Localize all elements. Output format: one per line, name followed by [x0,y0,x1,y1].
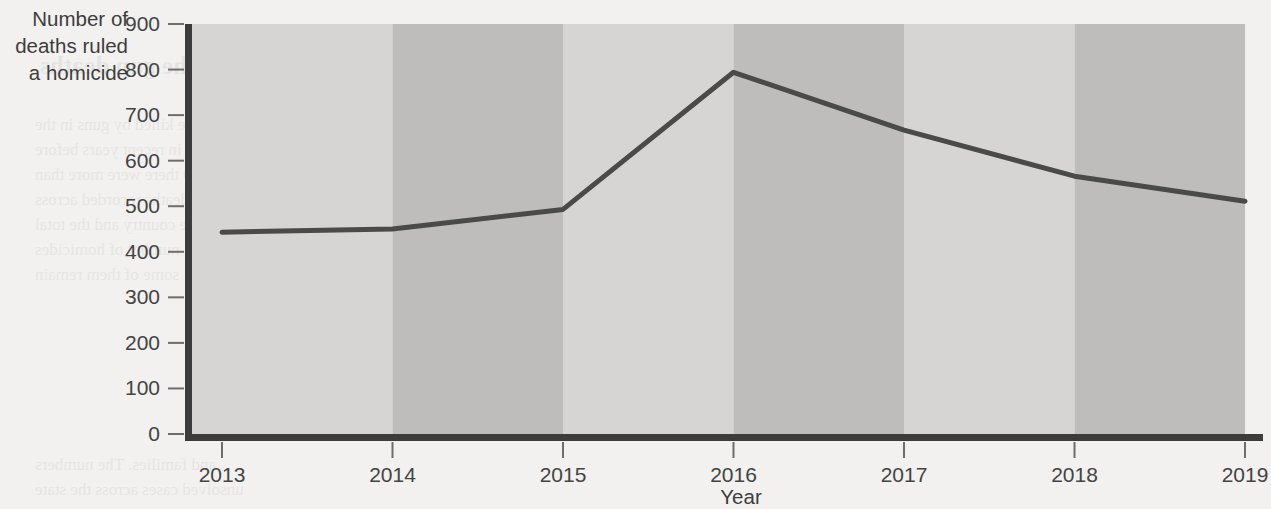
y-tick-label: 100 [125,376,160,399]
x-tick-label: 2017 [881,463,928,486]
x-tick-label: 2018 [1051,463,1098,486]
y-tick-label: 900 [125,12,160,35]
x-tick-label: 2019 [1222,463,1269,486]
y-tick-label: 300 [125,285,160,308]
year-band [734,24,905,434]
y-axis-title-line-2: deaths ruled [15,34,128,57]
y-axis-spine [185,24,192,441]
x-tick-label: 2016 [710,463,757,486]
x-axis-title: Year [720,485,762,508]
line-chart: 0100200300400500600700800900 20132014201… [0,0,1271,509]
year-band [1075,24,1246,434]
x-axis-tick-labels: 2013201420152016201720182019 [199,463,1269,486]
x-tick-label: 2015 [540,463,587,486]
year-band [563,24,734,434]
chart-canvas: 0100200300400500600700800900 20132014201… [0,0,1271,509]
x-tick-label: 2013 [199,463,246,486]
y-tick-label: 500 [125,194,160,217]
y-tick-label: 200 [125,331,160,354]
x-axis-spine [185,434,1263,441]
y-tick-label: 0 [148,422,160,445]
y-tick-label: 400 [125,240,160,263]
y-tick-label: 800 [125,58,160,81]
x-tick-label: 2014 [369,463,416,486]
y-tick-label: 600 [125,149,160,172]
year-band [904,24,1075,434]
y-tick-label: 700 [125,103,160,126]
y-axis-title-line-3: a homicide [29,61,128,84]
y-axis-tick-labels: 0100200300400500600700800900 [125,12,160,445]
year-band [393,24,564,434]
y-axis-title-line-1: Number of [32,7,128,30]
